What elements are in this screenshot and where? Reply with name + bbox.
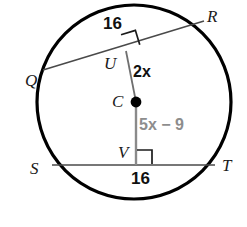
right-angle-marker-v [137, 150, 152, 164]
center-point-dot [131, 97, 142, 108]
radius-cv-expression-label: 5x − 9 [139, 117, 184, 133]
point-label-r: R [207, 8, 217, 25]
point-label-t: T [222, 157, 231, 174]
right-angle-marker-u [121, 30, 140, 49]
point-label-s: S [30, 160, 39, 177]
radius-cu-expression-label: 2x [133, 64, 151, 80]
geometry-canvas [0, 0, 247, 227]
geometry-figure: Q R S T U V C 16 16 2x 5x − 9 [0, 0, 247, 227]
point-label-v: V [118, 144, 128, 161]
point-label-u: U [104, 55, 116, 72]
chord-qr [43, 21, 204, 70]
chord-qr-length-label: 16 [103, 15, 122, 32]
point-label-c: C [112, 93, 123, 110]
point-label-q: Q [25, 72, 37, 89]
chord-st-length-label: 16 [131, 170, 150, 187]
